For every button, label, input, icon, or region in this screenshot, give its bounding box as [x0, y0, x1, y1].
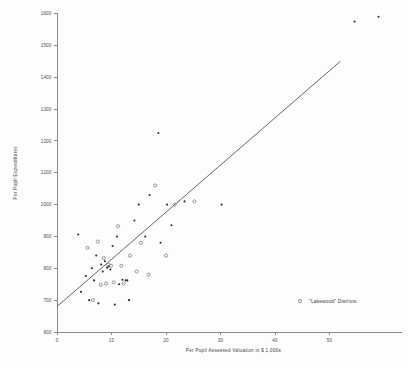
data-point-filled: [102, 270, 104, 272]
data-point-open: [139, 241, 142, 244]
data-point-open: [193, 200, 196, 203]
data-point-filled: [144, 235, 146, 237]
data-point-filled: [183, 200, 185, 202]
y-tick-label: 1400: [41, 75, 52, 80]
data-point-open: [86, 246, 89, 249]
data-point-open: [91, 299, 94, 302]
data-point-filled: [166, 204, 168, 206]
x-tick-label: 0: [56, 338, 59, 343]
data-point-filled: [85, 275, 87, 277]
data-point-filled: [114, 304, 116, 306]
data-point-filled: [93, 279, 95, 281]
data-point-open: [122, 282, 125, 285]
data-point-open: [96, 240, 99, 243]
data-point-open: [102, 257, 105, 260]
data-point-filled: [112, 245, 114, 247]
data-point-open: [154, 184, 157, 187]
data-point-filled: [116, 235, 118, 237]
data-point-filled: [160, 242, 162, 244]
data-point-open: [147, 273, 150, 276]
x-tick-label: 40: [272, 338, 278, 343]
data-point-filled: [80, 291, 82, 293]
y-tick-label: 1500: [41, 43, 52, 48]
data-point-open: [105, 282, 108, 285]
y-tick-label: 1600: [41, 11, 52, 16]
trend-line: [57, 61, 340, 306]
data-point-open: [120, 264, 123, 267]
y-tick-label: 1200: [41, 139, 52, 144]
data-point-filled: [126, 279, 128, 281]
data-point-filled: [118, 283, 120, 285]
data-point-open: [164, 254, 167, 257]
x-tick-label: 30: [218, 338, 224, 343]
data-point-filled: [77, 233, 79, 235]
data-point-open: [109, 264, 112, 267]
data-point-filled: [97, 302, 99, 304]
data-point-filled: [109, 269, 111, 271]
y-tick-label: 1300: [41, 107, 52, 112]
data-point-open: [128, 254, 131, 257]
data-point-open: [99, 283, 102, 286]
series-0: [77, 16, 379, 306]
data-point-filled: [91, 267, 93, 269]
y-tick-label: 700: [43, 298, 51, 303]
y-tick-label: 900: [43, 234, 51, 239]
data-point-filled: [170, 224, 172, 226]
data-point-filled: [88, 299, 90, 301]
data-point-filled: [221, 204, 223, 206]
x-tick-label: 50: [327, 338, 333, 343]
y-tick-label: 1100: [41, 170, 52, 175]
y-axis-title: Per Pupil Expenditures: [13, 146, 18, 200]
data-point-open: [112, 281, 115, 284]
legend-marker-open-circle: [298, 299, 301, 302]
data-point-filled: [138, 204, 140, 206]
x-tick-label: 20: [163, 338, 169, 343]
data-point-filled: [149, 194, 151, 196]
y-tick-label: 800: [43, 266, 51, 271]
y-tick-label: 1000: [41, 202, 52, 207]
data-point-open: [116, 225, 119, 228]
data-point-filled: [104, 260, 106, 262]
data-point-open: [135, 270, 138, 273]
x-tick-label: 10: [109, 338, 115, 343]
legend-label: "Lakewood" Districts: [309, 299, 357, 304]
y-tick-label: 600: [43, 330, 51, 335]
data-point-filled: [133, 219, 135, 221]
chart-figure: 6007008009001000110012001300140015001600…: [0, 0, 408, 368]
data-point-filled: [378, 16, 380, 18]
data-point-filled: [100, 263, 102, 265]
scatter-plot: 6007008009001000110012001300140015001600…: [0, 0, 408, 368]
data-point-filled: [121, 279, 123, 281]
data-point-filled: [354, 20, 356, 22]
data-point-filled: [128, 299, 130, 301]
x-axis-title: Per Pupil Assessed Valuation in $ 1,000s: [186, 348, 282, 353]
series-1: [86, 184, 196, 302]
data-point-filled: [157, 132, 159, 134]
data-point-filled: [95, 255, 97, 257]
